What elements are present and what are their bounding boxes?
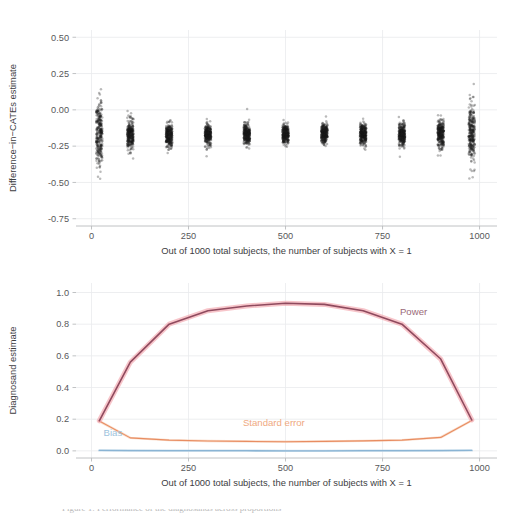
scatter-point	[364, 123, 367, 126]
scatter-point	[468, 94, 471, 97]
scatter-point	[468, 106, 471, 109]
x-axis-tick-label: 0	[89, 231, 94, 241]
scatter-point	[399, 155, 402, 158]
scatter-point	[442, 122, 445, 125]
scatter-point	[473, 169, 476, 172]
scatter-point	[282, 127, 285, 130]
scatter-point	[472, 83, 475, 86]
scatter-point	[100, 100, 103, 103]
scatter-point	[205, 129, 208, 132]
scatter-point	[472, 131, 475, 134]
scatter-point	[205, 124, 208, 127]
scatter-point	[398, 130, 401, 133]
scatter-point	[207, 139, 210, 142]
scatter-point	[470, 154, 473, 157]
scatter-point	[95, 136, 98, 139]
scatter-point	[127, 138, 130, 141]
scatter-point	[403, 136, 406, 139]
scatter-point	[365, 145, 368, 148]
scatter-point	[98, 104, 101, 107]
scatter-point	[168, 129, 171, 132]
scatter-point	[130, 131, 133, 134]
scatter-point	[439, 122, 442, 125]
scatter-plot-panel: 025050075010000.500.250.00-0.25-0.50-0.7…	[0, 0, 505, 258]
scatter-point	[402, 119, 405, 122]
scatter-point	[320, 138, 323, 141]
scatter-point	[398, 127, 401, 129]
scatter-point	[100, 154, 103, 157]
scatter-point	[359, 144, 362, 147]
scatter-point	[165, 132, 168, 135]
scatter-point	[130, 136, 133, 139]
y-axis-tick-label: 0.25	[51, 69, 69, 79]
scatter-point	[100, 88, 103, 91]
y-axis-tick-label: 0.2	[56, 414, 69, 424]
scatter-point	[437, 125, 440, 128]
diagnosand-estimate-chart: PowerStandard errorBias025050075010001.0…	[0, 258, 505, 508]
scatter-point	[205, 148, 208, 151]
scatter-point	[400, 132, 403, 135]
scatter-point	[467, 122, 470, 125]
scatter-point	[324, 138, 327, 141]
scatter-point	[359, 122, 362, 125]
scatter-point	[473, 142, 476, 145]
scatter-point	[169, 119, 172, 122]
scatter-point	[438, 134, 441, 137]
y-axis-tick-label: 0.6	[56, 351, 69, 361]
series-label-standard-error: Standard error	[243, 417, 306, 428]
diagnosand-grid	[76, 283, 497, 458]
scatter-point	[470, 100, 473, 103]
scatter-point	[360, 139, 363, 142]
scatter-point	[127, 140, 130, 143]
scatter-point	[437, 154, 440, 157]
caption-text: Figure 1: Performance of the diagnosands…	[62, 509, 505, 513]
scatter-point	[401, 136, 404, 139]
scatter-point	[470, 148, 473, 151]
scatter-point	[165, 129, 168, 132]
scatter-point	[243, 130, 246, 133]
scatter-point	[96, 166, 99, 169]
scatter-point	[131, 143, 134, 146]
scatter-point	[437, 114, 440, 117]
scatter-point	[398, 147, 401, 150]
scatter-point	[129, 127, 132, 130]
scatter-point	[165, 135, 168, 138]
scatter-point	[442, 136, 445, 139]
scatter-point	[100, 159, 103, 162]
scatter-point	[127, 131, 130, 134]
x-axis-title: Out of 1000 total subjects, the number o…	[161, 477, 411, 488]
scatter-point	[359, 131, 362, 134]
scatter-point	[97, 106, 100, 109]
scatter-point	[99, 177, 102, 180]
scatter-point	[437, 144, 440, 147]
scatter-point	[440, 130, 443, 133]
x-axis-tick-label: 250	[181, 231, 196, 241]
scatter-point	[469, 98, 472, 101]
scatter-point	[473, 126, 476, 129]
scatter-point	[284, 135, 287, 138]
scatter-point	[468, 151, 471, 154]
x-axis-title: Out of 1000 total subjects, the number o…	[161, 245, 411, 256]
scatter-point	[95, 160, 98, 163]
scatter-point	[97, 112, 100, 115]
scatter-point	[246, 134, 249, 137]
scatter-point	[324, 126, 327, 128]
scatter-point	[206, 118, 209, 121]
scatter-point	[206, 122, 209, 125]
scatter-point	[204, 145, 207, 148]
scatter-point	[131, 117, 134, 120]
scatter-point	[101, 120, 104, 123]
scatter-point	[471, 114, 474, 117]
scatter-point	[286, 140, 289, 143]
scatter-point	[471, 176, 474, 179]
scatter-point	[132, 157, 135, 160]
x-axis-tick-label: 500	[278, 463, 293, 473]
y-axis-tick-label: 1.0	[56, 288, 69, 298]
scatter-point	[165, 140, 168, 143]
scatter-point	[244, 138, 247, 141]
x-axis-tick-label: 1000	[469, 231, 489, 241]
scatter-point	[131, 134, 134, 137]
difference-in-cates-scatter-chart: 025050075010000.500.250.00-0.25-0.50-0.7…	[0, 0, 505, 258]
scatter-point	[99, 171, 102, 174]
scatter-point	[99, 166, 102, 169]
